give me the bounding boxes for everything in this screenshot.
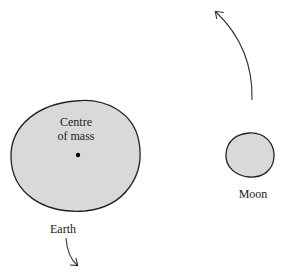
centre-of-mass-label-line2: of mass [58, 129, 95, 143]
moon-body [226, 133, 274, 177]
diagram-canvas: Centre of mass Moon Earth [0, 0, 282, 272]
earth-motion-arrow [66, 238, 77, 265]
centre-of-mass-dot [76, 153, 80, 157]
moon-motion-arrow [216, 12, 252, 100]
earth-label: Earth [50, 222, 76, 236]
centre-of-mass-label-line1: Centre [60, 115, 92, 129]
moon-label: Moon [239, 187, 268, 201]
